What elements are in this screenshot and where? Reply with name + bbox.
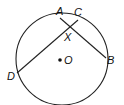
label-a: A (55, 5, 63, 17)
center-point (58, 58, 62, 62)
label-d: D (7, 70, 15, 82)
label-c: C (74, 6, 82, 18)
circle (16, 13, 108, 105)
label-x: X (63, 31, 72, 43)
geometry-diagram: A C X O B D (0, 0, 124, 105)
label-o: O (64, 54, 73, 66)
label-b: B (107, 54, 114, 66)
